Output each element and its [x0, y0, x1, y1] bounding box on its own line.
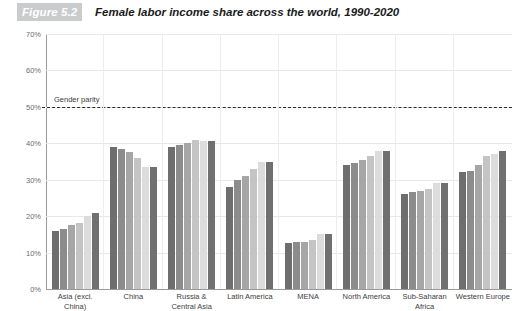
- bar[interactable]: [208, 141, 215, 289]
- bar[interactable]: [134, 158, 141, 289]
- bar[interactable]: [92, 213, 99, 290]
- figure-header: Figure 5.2 Female labor income share acr…: [0, 0, 515, 24]
- x-axis-category-label: North America: [337, 292, 395, 311]
- bar-group: [454, 34, 512, 289]
- bar[interactable]: [425, 189, 432, 289]
- x-axis-category-label: Latin America: [221, 292, 279, 311]
- bar[interactable]: [126, 152, 133, 289]
- bar[interactable]: [118, 149, 125, 289]
- bar[interactable]: [226, 187, 233, 289]
- bar[interactable]: [499, 151, 506, 289]
- bar[interactable]: [483, 156, 490, 289]
- bar[interactable]: [285, 243, 292, 289]
- bar[interactable]: [375, 151, 382, 289]
- bar[interactable]: [150, 167, 157, 289]
- bar-group: [46, 34, 104, 289]
- x-axis-category-label: Asia (excl. China): [46, 292, 104, 311]
- y-axis-tick-label: 40%: [26, 139, 41, 148]
- bar[interactable]: [417, 191, 424, 289]
- bar[interactable]: [110, 147, 117, 289]
- bar[interactable]: [84, 216, 91, 289]
- bar-groups: [46, 34, 512, 289]
- y-axis-tick-label: 0%: [30, 285, 41, 294]
- bar-set: [163, 34, 221, 289]
- bar[interactable]: [200, 141, 207, 289]
- x-axis-line: [46, 289, 512, 290]
- bar[interactable]: [68, 225, 75, 289]
- bar[interactable]: [343, 165, 350, 289]
- bar-group: [104, 34, 162, 289]
- bar-group: [396, 34, 454, 289]
- bar[interactable]: [184, 143, 191, 289]
- bar[interactable]: [475, 165, 482, 289]
- y-axis-tick-label: 60%: [26, 66, 41, 75]
- bar[interactable]: [258, 162, 265, 290]
- bar[interactable]: [192, 140, 199, 289]
- y-axis-tick-label: 20%: [26, 212, 41, 221]
- x-axis-category-label: Western Europe: [454, 292, 512, 311]
- bar-group: [221, 34, 279, 289]
- y-axis-tick-label: 30%: [26, 175, 41, 184]
- bar[interactable]: [250, 169, 257, 289]
- bar-group: [163, 34, 221, 289]
- bar[interactable]: [234, 180, 241, 289]
- bar[interactable]: [60, 229, 67, 289]
- figure-title: Female labor income share across the wor…: [95, 4, 399, 20]
- x-axis-category-label: China: [104, 292, 162, 311]
- x-axis-category-labels: Asia (excl. China)ChinaRussia & Central …: [46, 292, 512, 311]
- bar[interactable]: [325, 234, 332, 289]
- bar[interactable]: [168, 147, 175, 289]
- bar-group: [279, 34, 337, 289]
- bar-set: [337, 34, 395, 289]
- plot-area: 70%60%50%40%30%20%10%0% Gender parity: [46, 34, 512, 289]
- bar-group: [337, 34, 395, 289]
- bar-set: [46, 34, 104, 289]
- bar[interactable]: [351, 163, 358, 289]
- bar[interactable]: [491, 154, 498, 289]
- bar[interactable]: [433, 183, 440, 289]
- bar[interactable]: [409, 192, 416, 289]
- y-axis-tick-label: 50%: [26, 102, 41, 111]
- bar[interactable]: [266, 162, 273, 290]
- bar[interactable]: [76, 223, 83, 289]
- x-axis-category-label: Sub-Saharan Africa: [396, 292, 454, 311]
- y-axis-tick-label: 10%: [26, 248, 41, 257]
- bar[interactable]: [176, 145, 183, 289]
- bar-set: [279, 34, 337, 289]
- bar[interactable]: [367, 156, 374, 289]
- bar-set: [396, 34, 454, 289]
- bar[interactable]: [293, 242, 300, 289]
- bar[interactable]: [401, 194, 408, 289]
- bar[interactable]: [309, 240, 316, 289]
- figure-number-badge: Figure 5.2: [17, 3, 82, 21]
- chart-container: 70%60%50%40%30%20%10%0% Gender parity As…: [0, 24, 515, 311]
- bar-set: [221, 34, 279, 289]
- bar[interactable]: [52, 231, 59, 289]
- x-axis-category-label: MENA: [279, 292, 337, 311]
- bar[interactable]: [301, 242, 308, 289]
- bar[interactable]: [459, 172, 466, 289]
- bar[interactable]: [242, 176, 249, 289]
- bar[interactable]: [383, 151, 390, 289]
- bar-set: [104, 34, 162, 289]
- bar[interactable]: [317, 234, 324, 289]
- x-axis-category-label: Russia & Central Asia: [163, 292, 221, 311]
- bar[interactable]: [441, 183, 448, 289]
- bar[interactable]: [359, 160, 366, 289]
- y-axis-tick-label: 70%: [26, 30, 41, 39]
- bar[interactable]: [142, 167, 149, 289]
- bar-set: [454, 34, 512, 289]
- bar[interactable]: [467, 171, 474, 289]
